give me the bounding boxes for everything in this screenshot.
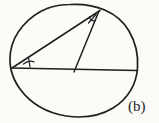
circle-theorem-diagram: (b) — [0, 0, 159, 123]
geometry-figure: (b) — [0, 0, 159, 123]
figure-label: (b) — [128, 98, 146, 115]
left-angle-tick-mark — [29, 58, 31, 68]
